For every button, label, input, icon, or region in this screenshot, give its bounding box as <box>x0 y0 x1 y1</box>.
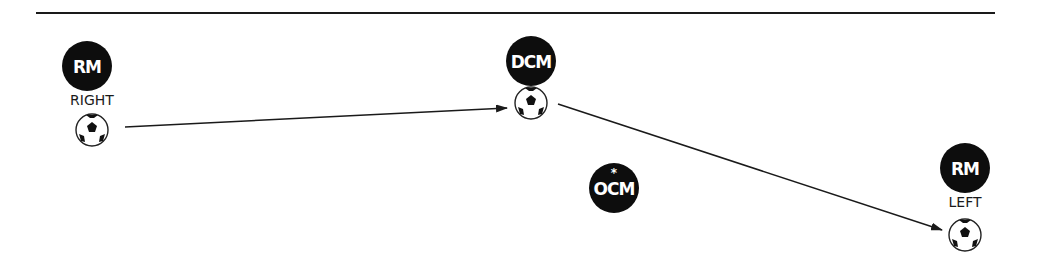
player-role: RM <box>951 159 979 179</box>
player-ocm: * OCM <box>589 163 639 213</box>
player-role: OCM <box>594 179 635 199</box>
player-rm-right: RM <box>62 41 112 91</box>
player-side-label: RIGHT <box>52 92 132 108</box>
soccer-ball-icon <box>74 112 110 148</box>
player-role: DCM <box>511 52 552 72</box>
pass-arrow-rm-to-dcm <box>125 108 507 127</box>
player-side-label: LEFT <box>925 194 1005 210</box>
player-dcm: DCM <box>506 36 556 86</box>
asterisk-marker: * <box>589 167 639 179</box>
soccer-ball-icon <box>513 85 549 121</box>
player-rm-left: RM <box>940 143 990 193</box>
soccer-ball-icon <box>947 217 983 253</box>
player-role: RM <box>73 57 101 77</box>
